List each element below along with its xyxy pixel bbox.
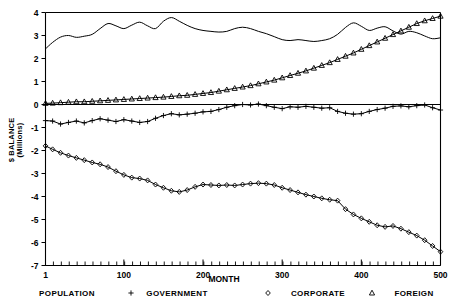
y-tick-label: -1 <box>31 123 39 133</box>
y-axis-title-line2: (Millions) <box>15 122 24 157</box>
x-tick-label: 500 <box>433 270 447 280</box>
y-tick-label: 4 <box>34 8 39 18</box>
series-marker <box>256 101 261 106</box>
series-marker <box>295 105 300 110</box>
legend-label-population: POPULATION <box>39 289 95 298</box>
series-marker <box>422 102 427 107</box>
series-marker <box>200 109 205 114</box>
x-tick-label: 400 <box>354 270 368 280</box>
series-marker <box>240 102 245 107</box>
series-marker <box>98 116 103 121</box>
series-marker <box>185 112 190 117</box>
series-marker <box>208 109 213 114</box>
y-tick-label: 3 <box>34 31 39 41</box>
series-marker <box>129 118 134 123</box>
series-marker <box>216 107 221 112</box>
series-corporate <box>43 143 443 254</box>
series-marker <box>359 111 364 116</box>
legend-label-government: GOVERNMENT <box>146 289 207 298</box>
series-marker <box>224 105 229 110</box>
series-marker <box>43 118 48 123</box>
series-marker <box>121 117 126 122</box>
series-marker <box>232 103 237 108</box>
series-marker <box>266 291 271 296</box>
series-marker <box>367 109 372 114</box>
series-marker <box>58 121 63 126</box>
series-marker <box>430 105 435 110</box>
series-line <box>46 146 441 252</box>
series-marker <box>145 119 150 124</box>
x-tick-label: 300 <box>275 270 289 280</box>
x-tick-label: 100 <box>117 270 131 280</box>
y-tick-label: 2 <box>34 54 39 64</box>
series-marker <box>327 105 332 110</box>
series-marker <box>369 290 374 295</box>
series-marker <box>280 106 285 111</box>
chart-container: 43210-1-2-3-4-5-6-71100200300400500MONTH… <box>0 0 453 307</box>
x-tick-label: 1 <box>43 270 48 280</box>
y-tick-label: 1 <box>34 77 39 87</box>
series-marker <box>319 106 324 111</box>
series-marker <box>82 120 87 125</box>
series-marker <box>193 111 198 116</box>
series-marker <box>137 120 142 125</box>
series-marker <box>335 109 340 114</box>
series-marker <box>264 103 269 108</box>
series-line <box>46 16 441 103</box>
series-marker <box>438 107 443 112</box>
series-marker <box>74 118 79 123</box>
y-tick-label: -7 <box>31 261 39 271</box>
legend-label-corporate: CORPORATE <box>291 289 345 298</box>
series-marker <box>90 118 95 123</box>
x-axis-title: MONTH <box>208 274 239 284</box>
series-marker <box>351 112 356 117</box>
series-marker <box>177 112 182 117</box>
y-tick-label: -3 <box>31 169 39 179</box>
series-marker <box>105 118 110 123</box>
series-marker <box>66 120 71 125</box>
series-marker <box>153 116 158 121</box>
series-marker <box>272 105 277 110</box>
legend-label-foreign: FOREIGN <box>394 289 433 298</box>
y-tick-label: -2 <box>31 146 39 156</box>
series-marker <box>311 105 316 110</box>
series-marker <box>50 118 55 123</box>
series-marker <box>375 107 380 112</box>
series-line <box>46 18 441 49</box>
series-marker <box>113 119 118 124</box>
y-tick-label: 0 <box>34 100 39 110</box>
series-marker <box>248 102 253 107</box>
series-marker <box>169 111 174 116</box>
series-government <box>43 101 443 126</box>
y-tick-label: -6 <box>31 238 39 248</box>
chart-svg: 43210-1-2-3-4-5-6-71100200300400500MONTH… <box>0 0 453 307</box>
series-marker <box>128 290 133 295</box>
series-marker <box>414 103 419 108</box>
series-population <box>46 18 441 49</box>
y-tick-label: -4 <box>31 192 39 202</box>
series-marker <box>343 111 348 116</box>
series-marker <box>161 113 166 118</box>
y-tick-label: -5 <box>31 215 39 225</box>
series-marker <box>382 106 387 111</box>
